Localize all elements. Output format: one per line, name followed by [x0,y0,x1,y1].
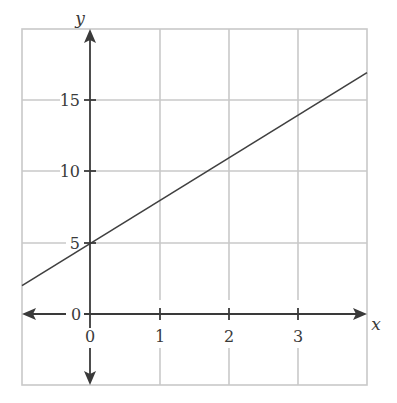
y-tick-label-10: 10 [60,162,80,181]
x-tick-label-2: 2 [224,327,234,346]
x-tick-label-0: 0 [85,327,95,346]
y-axis-label: y [74,8,85,28]
y-tick-label-0: 0 [71,305,81,324]
grid [22,29,367,385]
x-tick-label-3: 3 [293,327,303,346]
chart-canvas: 15 10 5 0 0 1 2 3 y x [0,0,397,403]
x-tick-label-1: 1 [155,327,165,346]
x-axis-label: x [371,314,381,334]
y-tick-label-15: 15 [60,91,80,110]
axes [22,29,367,385]
grid-border [22,29,367,385]
y-tick-label-5: 5 [70,234,80,253]
